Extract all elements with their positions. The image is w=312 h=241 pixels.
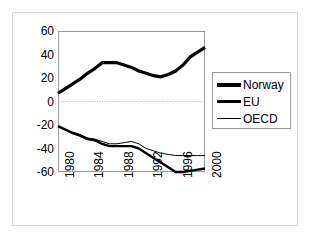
chart-legend: Norway EU OECD — [212, 72, 291, 129]
legend-item-norway: Norway — [217, 76, 284, 93]
medium-line-icon — [217, 98, 241, 106]
x-tick-label: 2000 — [211, 151, 223, 178]
thick-line-icon — [217, 81, 241, 89]
legend-label-oecd: OECD — [243, 113, 278, 125]
thin-line-icon — [217, 115, 241, 123]
legend-item-eu: EU — [217, 93, 260, 110]
x-tick-label: 1996 — [182, 151, 194, 178]
chart-figure: 6040200-20-40-60 19801984198819921996200… — [0, 0, 312, 241]
x-tick-label: 1980 — [64, 151, 76, 178]
x-tick-label: 1984 — [93, 151, 105, 178]
legend-label-eu: EU — [243, 96, 260, 108]
legend-label-norway: Norway — [243, 79, 284, 91]
x-tick-label: 1988 — [123, 151, 135, 178]
legend-item-oecd: OECD — [217, 110, 278, 127]
x-tick-label: 1992 — [152, 151, 164, 178]
